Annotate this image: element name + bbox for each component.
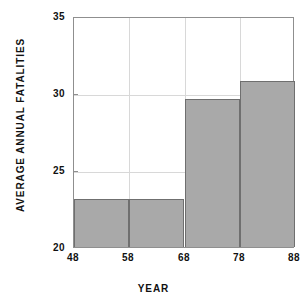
plot-area	[73, 17, 294, 248]
y-tick-mark	[73, 171, 78, 172]
bar-chart-figure: AVERAGE ANNUAL FATALITIES 35302520485868…	[0, 0, 307, 306]
y-axis-title: AVERAGE ANNUAL FATALITIES	[12, 0, 30, 250]
y-tick-label: 25	[5, 165, 65, 176]
x-tick-label: 48	[53, 252, 93, 263]
y-tick-mark	[73, 94, 78, 95]
x-tick-label: 58	[108, 252, 148, 263]
bar	[240, 81, 295, 247]
bar	[185, 99, 240, 247]
x-tick-label: 78	[219, 252, 259, 263]
bar	[129, 199, 184, 247]
y-tick-label: 30	[5, 88, 65, 99]
y-tick-label: 35	[5, 11, 65, 22]
bar	[74, 199, 129, 247]
x-tick-label: 68	[164, 252, 204, 263]
x-axis-title: YEAR	[0, 283, 307, 294]
x-tick-label: 88	[274, 252, 307, 263]
